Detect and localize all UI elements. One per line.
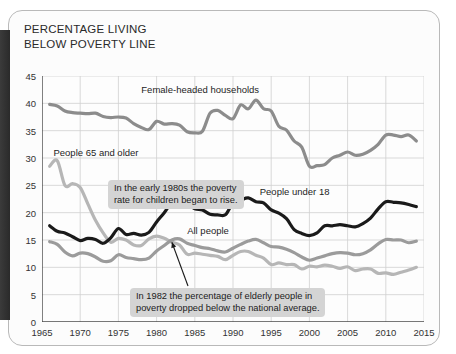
chart-title-line-2: BELOW POVERTY LINE xyxy=(24,37,324,52)
chart-title-line-1: PERCENTAGE LIVING xyxy=(24,22,324,37)
y-axis-tick-label: 0 xyxy=(10,317,36,328)
series-label-female-headed-households: Female-headed households xyxy=(141,84,259,95)
series-label-all-people: All people xyxy=(187,225,229,236)
x-axis-tick-label: 1970 xyxy=(70,327,91,338)
x-axis-tick-label: 2015 xyxy=(413,327,434,338)
y-axis-tick-label: 20 xyxy=(10,207,36,218)
callout-line-1: In the early 1980s the poverty xyxy=(114,183,238,195)
callout-line-2: poverty dropped below the national avera… xyxy=(136,303,319,315)
y-axis-tick-label: 25 xyxy=(10,180,36,191)
x-axis-tick-label: 1980 xyxy=(146,327,167,338)
elderly-below-average-callout: In 1982 the percentage of elderly people… xyxy=(130,288,325,317)
callout-line-1: In 1982 the percentage of elderly people… xyxy=(136,291,319,303)
y-axis-tick-label: 30 xyxy=(10,153,36,164)
plot-area: 0510152025303540451965197019751980198519… xyxy=(42,76,424,322)
x-axis-tick-label: 1965 xyxy=(31,327,52,338)
y-axis-tick-label: 35 xyxy=(10,125,36,136)
series-label-people-65-and-older: People 65 and older xyxy=(53,147,138,158)
chart-title: PERCENTAGE LIVING BELOW POVERTY LINE xyxy=(24,22,324,51)
y-axis-tick-label: 10 xyxy=(10,262,36,273)
x-axis-tick-label: 2000 xyxy=(299,327,320,338)
y-axis-tick-label: 45 xyxy=(10,71,36,82)
chart-figure: PERCENTAGE LIVING BELOW POVERTY LINE 051… xyxy=(0,0,456,354)
x-axis-tick-label: 1990 xyxy=(222,327,243,338)
x-axis-tick-label: 1995 xyxy=(261,327,282,338)
series-label-people-under-18: People under 18 xyxy=(260,186,330,197)
x-axis-tick-label: 2005 xyxy=(337,327,358,338)
children-rise-callout: In the early 1980s the povertyrate for c… xyxy=(108,180,244,209)
y-axis-tick-label: 15 xyxy=(10,235,36,246)
y-axis-tick-label: 5 xyxy=(10,289,36,300)
callout-line-2: rate for children began to rise. xyxy=(114,195,238,207)
y-axis-tick-label: 40 xyxy=(10,98,36,109)
page-spine-shadow xyxy=(0,30,10,320)
x-axis-tick-label: 2010 xyxy=(375,327,396,338)
x-axis-tick-label: 1985 xyxy=(184,327,205,338)
x-axis-tick-label: 1975 xyxy=(108,327,129,338)
